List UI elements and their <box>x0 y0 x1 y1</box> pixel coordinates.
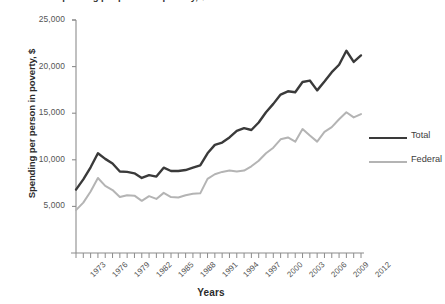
legend-line-swatch <box>369 161 407 163</box>
chart-figure: Spending per person in poverty, $ Spendi… <box>0 0 445 304</box>
series-line-total <box>76 51 361 190</box>
legend-item: Total <box>369 128 445 152</box>
chart-legend: TotalFederal <box>369 128 445 176</box>
y-axis-ticks <box>72 20 76 206</box>
legend-item: Federal <box>369 152 445 176</box>
x-axis-ticks <box>76 253 361 258</box>
data-series <box>76 51 361 210</box>
series-line-federal <box>76 112 361 210</box>
legend-label: Total <box>411 130 430 140</box>
legend-line-swatch <box>369 137 407 139</box>
x-axis-title: Years <box>56 287 366 298</box>
legend-label: Federal <box>411 154 442 164</box>
